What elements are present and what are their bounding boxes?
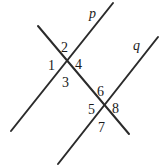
angle-label-4: 4 [75,58,82,72]
line-label-p: p [89,7,96,21]
angle-label-7: 7 [98,121,105,135]
angle-label-1: 1 [48,59,55,73]
angle-label-5: 5 [88,103,95,117]
geometry-diagram: p q 1 2 3 4 5 6 7 8 [0,0,165,166]
angle-label-3: 3 [62,76,69,90]
line-label-q: q [133,39,140,53]
geometry-canvas [0,0,165,166]
angle-label-8: 8 [112,102,119,116]
angle-label-6: 6 [97,85,104,99]
line-p [11,3,113,131]
angle-label-2: 2 [61,41,68,55]
line-q [58,37,158,164]
